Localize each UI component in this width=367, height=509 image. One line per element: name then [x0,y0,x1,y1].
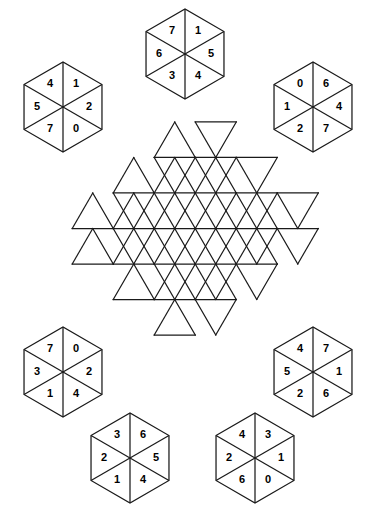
hexagon-piece-number: 1 [47,387,53,399]
hexagon-piece-number: 3 [34,365,40,377]
hexagon-piece-number: 0 [73,342,79,354]
hexagon-piece-number: 4 [297,342,304,354]
hexagon-piece-number: 5 [34,100,40,112]
hexagon-piece-number: 7 [169,24,175,36]
hexagon-piece-number: 1 [336,365,342,377]
hexagon-piece-number: 1 [278,451,284,463]
hexagon-piece-number: 4 [239,428,246,440]
hexagon-piece-number: 4 [195,69,202,81]
hexagon-piece-number: 4 [73,387,80,399]
hexagon-piece-number: 7 [323,122,329,134]
hexagon-piece-number: 7 [47,342,53,354]
hexagon-piece-number: 4 [140,473,147,485]
hexagon-piece-number: 7 [47,122,53,134]
hexagon-piece-number: 7 [323,342,329,354]
hexagon-piece-number: 4 [47,77,54,89]
hexagon-piece-number: 3 [265,428,271,440]
hexagon-piece-number: 2 [86,100,92,112]
hexagon-piece-number: 0 [265,473,271,485]
hexagon-piece-number: 5 [208,47,214,59]
hexagon-piece-number: 4 [336,100,343,112]
hexagon-piece-number: 2 [226,451,232,463]
hexagon-piece-number: 5 [153,451,159,463]
hexagon-piece-number: 2 [101,451,107,463]
hexagon-piece-number: 6 [323,387,329,399]
hexagon-piece-number: 2 [297,387,303,399]
hexagon-piece-number: 6 [323,77,329,89]
hexagon-piece-number: 2 [297,122,303,134]
hexagon-piece-number: 1 [195,24,201,36]
puzzle-canvas: 7154364120750647217024134716253654124310… [0,0,367,509]
hexagon-piece-number: 0 [73,122,79,134]
hexagon-piece-number: 2 [86,365,92,377]
hexagon-piece-number: 3 [169,69,175,81]
hexagon-piece-number: 0 [297,77,303,89]
hexagon-piece-number: 1 [73,77,79,89]
hexagon-piece-number: 1 [114,473,120,485]
hexagon-piece-number: 5 [284,365,290,377]
hexagon-piece-number: 3 [114,428,120,440]
hexagon-piece-number: 6 [156,47,162,59]
hexagon-piece-number: 6 [140,428,146,440]
hexagon-piece-number: 6 [239,473,245,485]
hexagon-piece-number: 1 [284,100,290,112]
